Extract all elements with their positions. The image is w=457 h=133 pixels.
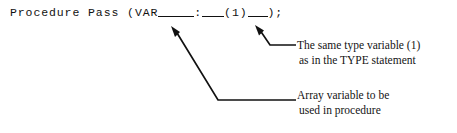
- leader-line-array-variable: [171, 26, 296, 100]
- annotation-type-variable-line2: as in the TYPE statement: [297, 53, 420, 68]
- leader-line-type-variable: [255, 25, 296, 45]
- annotation-array-variable-line2: used in procedure: [297, 103, 389, 118]
- procedure-declaration-figure: Procedure Pass (VAR:(1)); The same type …: [0, 0, 457, 133]
- annotation-array-variable: Array variable to be used in procedure: [297, 88, 389, 117]
- annotation-type-variable: The same type variable (1) as in the TYP…: [297, 38, 420, 67]
- annotation-type-variable-line1: The same type variable (1): [297, 39, 420, 51]
- annotation-array-variable-line1: Array variable to be: [297, 89, 389, 101]
